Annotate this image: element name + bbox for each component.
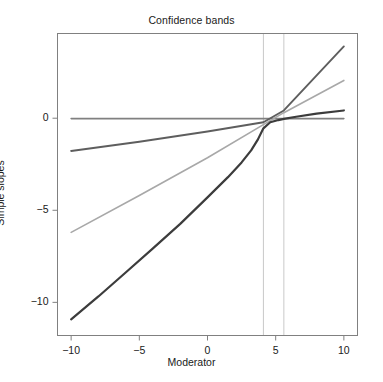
- x-tick-label-0: −10: [51, 344, 91, 356]
- y-axis-title: Simple slopes: [0, 93, 6, 293]
- series-line-1: [71, 80, 344, 232]
- y-tick-label-1: −5: [9, 203, 49, 215]
- x-tick-label-1: −5: [119, 344, 159, 356]
- y-axis-title-wrap: Simple slopes: [0, 184, 198, 198]
- chart-canvas: Confidence bands Moderator Simple slopes…: [0, 0, 383, 382]
- series-line-2: [71, 46, 344, 151]
- x-tick-label-3: 5: [256, 344, 296, 356]
- x-tick-label-2: 0: [188, 344, 228, 356]
- y-tick-label-0: 0: [9, 111, 49, 123]
- x-axis-title: Moderator: [0, 356, 383, 368]
- series-line-3: [71, 110, 344, 319]
- x-tick-label-4: 10: [324, 344, 364, 356]
- y-tick-label-2: −10: [9, 295, 49, 307]
